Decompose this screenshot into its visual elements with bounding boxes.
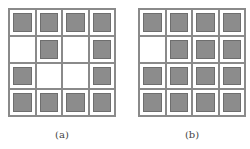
filled-cell bbox=[62, 89, 89, 116]
filled-cell bbox=[192, 36, 219, 63]
filled-cell bbox=[166, 36, 193, 63]
filled-cell bbox=[9, 9, 36, 36]
filled-cell bbox=[166, 9, 193, 36]
filled-cell bbox=[89, 89, 116, 116]
filled-cell bbox=[139, 9, 166, 36]
filled-cell bbox=[219, 9, 246, 36]
filled-cell bbox=[219, 89, 246, 116]
filled-cell bbox=[219, 63, 246, 90]
filled-cell bbox=[139, 89, 166, 116]
filled-cell bbox=[62, 9, 89, 36]
panel-b-label: (b) bbox=[138, 129, 246, 140]
empty-cell bbox=[62, 63, 89, 90]
filled-cell bbox=[36, 9, 63, 36]
filled-cell bbox=[166, 63, 193, 90]
empty-cell bbox=[139, 36, 166, 63]
filled-cell bbox=[89, 36, 116, 63]
panel-a-label: (a) bbox=[8, 129, 116, 140]
filled-cell bbox=[36, 89, 63, 116]
filled-cell bbox=[192, 63, 219, 90]
panel-a-grid bbox=[8, 8, 116, 117]
filled-cell bbox=[36, 36, 63, 63]
filled-cell bbox=[9, 89, 36, 116]
filled-cell bbox=[9, 63, 36, 90]
filled-cell bbox=[219, 36, 246, 63]
empty-cell bbox=[36, 63, 63, 90]
filled-cell bbox=[166, 89, 193, 116]
panel-b-grid bbox=[138, 8, 246, 117]
filled-cell bbox=[89, 63, 116, 90]
empty-cell bbox=[62, 36, 89, 63]
filled-cell bbox=[139, 63, 166, 90]
filled-cell bbox=[192, 9, 219, 36]
filled-cell bbox=[192, 89, 219, 116]
empty-cell bbox=[9, 36, 36, 63]
filled-cell bbox=[89, 9, 116, 36]
